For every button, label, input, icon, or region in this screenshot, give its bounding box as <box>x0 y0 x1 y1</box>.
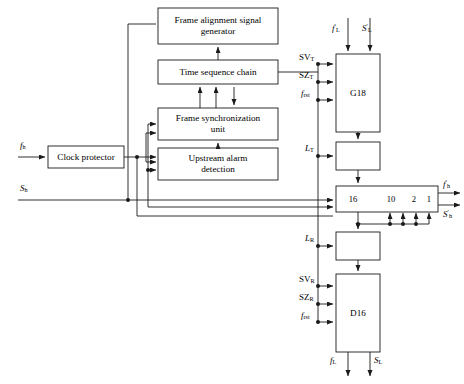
tap2-text: 2 <box>412 194 416 204</box>
junction-d16-sz <box>316 302 320 306</box>
signal-label-svt: SVT <box>299 52 314 62</box>
junction-lt <box>316 154 320 158</box>
signal-label-sh-prime-out: S′h <box>443 208 452 219</box>
block-buffer-bottom <box>336 232 380 260</box>
junction-g18-frst <box>316 98 320 102</box>
junction-shift-mid <box>356 222 360 226</box>
signal-label-SL-out: SL <box>374 355 382 365</box>
junction-bus-b <box>146 168 150 172</box>
block-buffer-top <box>336 142 380 170</box>
junction-d16-frst <box>316 320 320 324</box>
signal-label-lr: LR <box>305 233 314 243</box>
junction-clock-out <box>135 155 139 159</box>
junction-tap-2 <box>414 222 418 226</box>
junction-sh-bus <box>126 198 130 202</box>
signal-label-lt: LT <box>305 143 314 153</box>
junction-tap-10 <box>401 222 405 226</box>
diagram-canvas: Frame alignment signalgenerator Time seq… <box>0 0 464 384</box>
shift-tap-1: 1 <box>424 194 434 204</box>
signal-label-svr: SVR <box>299 274 315 284</box>
diagram-lines <box>0 0 464 384</box>
junction-tap-16 <box>388 222 392 226</box>
signal-label-SL-prime-in: S′L <box>362 22 372 33</box>
signal-label-sh: Sh <box>20 183 28 193</box>
signal-label-frst-r: frst <box>301 310 310 320</box>
block-time-sequence-chain <box>158 60 278 84</box>
shift-tap-10: 10 <box>384 194 398 204</box>
signal-label-szt: SZT <box>299 70 313 80</box>
junction-g18-sv <box>316 62 320 66</box>
shift-tap-16: 16 <box>345 194 361 204</box>
junction-d16-sv <box>316 284 320 288</box>
block-upstream-alarm-detection <box>158 148 278 180</box>
signal-label-fh-prime-out: f′h <box>443 178 450 189</box>
signal-label-szr: SZR <box>299 292 314 302</box>
shift-tap-2: 2 <box>409 194 419 204</box>
signal-label-fL-out: fL <box>330 355 336 365</box>
junction-g18-sz <box>316 80 320 84</box>
signal-label-fL-prime-in: f′L <box>332 22 340 33</box>
block-clock-protector <box>48 146 124 168</box>
block-frame-alignment-signal-generator <box>158 8 278 44</box>
tap1-text: 1 <box>427 194 431 204</box>
block-frame-synchronization-unit <box>158 108 278 140</box>
tap10-text: 10 <box>387 194 396 204</box>
tap16-text: 16 <box>349 194 358 204</box>
block-d16 <box>336 274 380 352</box>
signal-label-frst-t: frst <box>301 88 310 98</box>
block-g18 <box>336 54 380 132</box>
signal-label-fh: fh <box>20 140 26 150</box>
